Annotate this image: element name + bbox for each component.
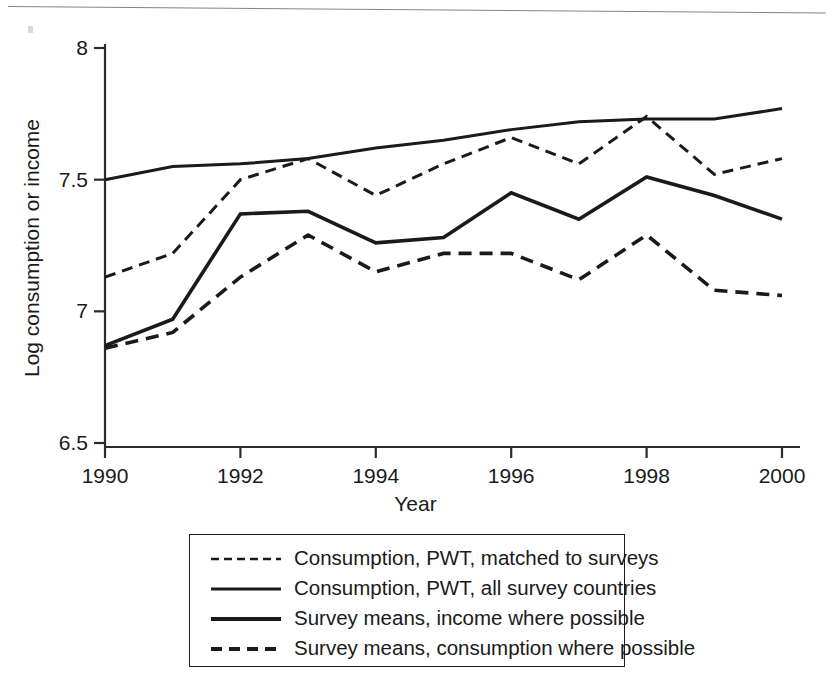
y-axis-tick-label: 6.5 xyxy=(20,432,88,453)
solid-line-sample xyxy=(210,610,282,628)
x-axis-tick-label: 1990 xyxy=(55,465,155,486)
legend-item-label: Survey means, consumption where possible xyxy=(294,638,695,659)
solid-line-sample xyxy=(210,580,282,598)
x-axis-label: Year xyxy=(0,492,831,516)
y-axis-tick-label: 7 xyxy=(20,300,88,321)
x-axis-tick-label: 1996 xyxy=(461,465,561,486)
legend-item: Survey means, consumption where possible xyxy=(190,633,624,664)
y-axis-tick-label: 7.5 xyxy=(20,169,88,190)
axis-lines xyxy=(105,44,800,447)
plot-area: Log consumption or income Year 6.577.58 … xyxy=(0,0,831,500)
legend-item: Consumption, PWT, matched to surveys xyxy=(190,543,624,574)
series-line-3 xyxy=(105,235,782,348)
legend-item-label: Survey means, income where possible xyxy=(294,608,645,629)
chart-legend: Consumption, PWT, matched to surveysCons… xyxy=(189,534,625,667)
data-series-group xyxy=(105,109,782,349)
figure-canvas: Log consumption or income Year 6.577.58 … xyxy=(0,0,831,687)
x-axis-tick-label: 1994 xyxy=(326,465,426,486)
legend-item-label: Consumption, PWT, matched to surveys xyxy=(294,548,659,569)
line-chart-svg xyxy=(0,0,831,500)
x-axis-tick-label: 1992 xyxy=(190,465,290,486)
dashed-line-sample xyxy=(210,640,282,658)
x-axis-tick-label: 1998 xyxy=(597,465,697,486)
legend-item-label: Consumption, PWT, all survey countries xyxy=(294,578,656,599)
dashed-line-sample xyxy=(210,550,282,568)
x-axis-ticks xyxy=(105,447,782,458)
x-axis-tick-label: 2000 xyxy=(732,465,831,486)
y-axis-ticks xyxy=(94,48,105,443)
legend-item: Consumption, PWT, all survey countries xyxy=(190,573,624,604)
series-line-2 xyxy=(105,177,782,346)
y-axis-tick-label: 8 xyxy=(20,37,88,58)
legend-item: Survey means, income where possible xyxy=(190,603,624,634)
y-axis-label: Log consumption or income xyxy=(20,48,44,448)
